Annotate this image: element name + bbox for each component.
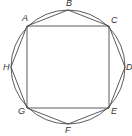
label-F: F [65,125,71,135]
label-D: D [126,62,132,72]
inscribed-octagon [11,10,125,124]
inscribed-square [27,26,109,108]
label-H: H [3,62,10,72]
label-B: B [66,0,72,8]
label-E: E [111,106,118,116]
label-C: C [111,15,118,25]
geometry-diagram: A B C D E F G H [0,0,132,136]
circumscribed-circle [11,10,125,124]
label-G: G [18,106,25,116]
label-A: A [21,13,28,23]
